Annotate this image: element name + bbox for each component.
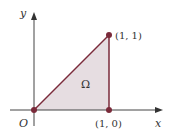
point-origin (31, 107, 37, 113)
diagram-canvas: y x O (1, 1) (1, 0) Ω (0, 0, 174, 136)
diagram-svg: y x O (1, 1) (1, 0) Ω (0, 0, 174, 136)
y-axis-label: y (19, 7, 27, 20)
point-1-0 (106, 107, 112, 113)
origin-label: O (19, 117, 28, 130)
x-axis-arrow-icon (155, 107, 163, 113)
point-1-1-label: (1, 1) (115, 30, 142, 41)
point-1-0-label: (1, 0) (95, 118, 122, 129)
y-axis-arrow-icon (31, 12, 37, 20)
x-axis-label: x (155, 117, 162, 130)
region-label-omega: Ω (81, 78, 90, 91)
point-1-1 (106, 32, 112, 38)
